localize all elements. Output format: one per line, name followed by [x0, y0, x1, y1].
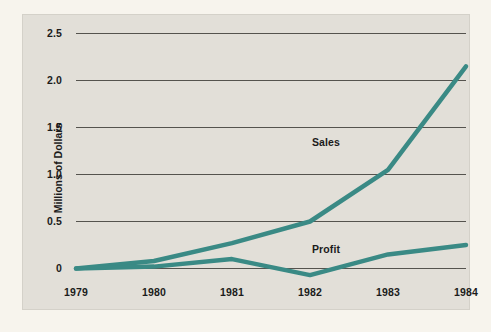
chart-panel: 2.5 2.0 1.5 1.0 0.5 0 1979 1980 1981 198… [22, 14, 470, 310]
chart-figure: 2.5 2.0 1.5 1.0 0.5 0 1979 1980 1981 198… [0, 0, 491, 332]
x-tick-label-1982: 1982 [285, 286, 335, 298]
y-tick-label-2-0: 2.0 [28, 74, 62, 86]
series-annotation-profit: Profit [312, 243, 340, 255]
series-annotation-sales: Sales [312, 136, 340, 148]
x-tick-label-1979: 1979 [51, 286, 101, 298]
line-chart-plot [22, 14, 470, 310]
y-tick-label-0: 0 [28, 262, 62, 274]
y-tick-label-2-5: 2.5 [28, 27, 62, 39]
x-tick-label-1981: 1981 [207, 286, 257, 298]
series-line-sales [76, 66, 466, 268]
x-tick-label-1984: 1984 [441, 286, 491, 298]
x-tick-label-1980: 1980 [129, 286, 179, 298]
series-line-profit [76, 245, 466, 275]
x-tick-label-1983: 1983 [363, 286, 413, 298]
y-axis-title: Millions of Dollars [52, 108, 64, 228]
